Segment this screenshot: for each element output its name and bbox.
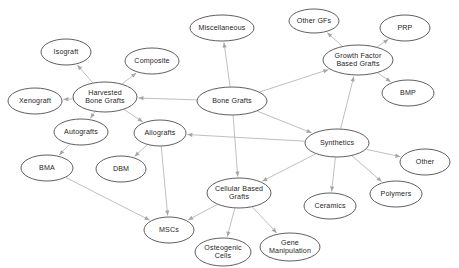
node-gene[interactable]: GeneManipulation [260,233,320,261]
node-allografts[interactable]: Allografts [134,120,186,146]
edge-synthetics-to-growth_factor [341,76,355,128]
node-label: PRP [397,24,412,32]
arrowhead-icon [138,96,143,100]
arrowhead-icon [395,154,400,158]
node-osteogenic[interactable]: OsteogenicCells [195,238,251,266]
node-bone_grafts[interactable]: Bone Grafts [197,87,267,115]
arrowhead-icon [330,186,334,191]
node-label: Bone Grafts [212,97,252,105]
edge-harvested-to-autografts [90,112,95,119]
edge-bone_grafts-to-synthetics [257,111,311,133]
edge-line [262,154,315,181]
edge-line [224,42,230,86]
node-label: Other GFs [297,17,332,25]
edge-harvested-to-xenograft [63,97,72,101]
node-growth_factor[interactable]: Growth FactorBased Grafts [323,45,393,75]
node-synthetics[interactable]: Synthetics [305,129,369,157]
node-label: Ceramics [314,202,345,210]
node-bmp[interactable]: BMP [382,80,434,106]
node-label: Growth Factor [335,52,382,60]
node-label: Miscellaneous [199,24,246,32]
concept-map-diagram: Bone GraftsMiscellaneousHarvestedBone Gr… [0,0,459,268]
edge-bma-to-mscs [66,178,150,221]
arrowhead-icon [90,113,95,118]
arrowhead-icon [63,97,68,101]
node-label: Grafts [229,193,250,201]
node-label: Gene [281,239,299,247]
node-label: Cellular Based [215,185,263,193]
arrowhead-icon [235,171,239,176]
arrowhead-icon [386,77,391,82]
node-label: Polymers [381,190,412,198]
edge-cellular-to-mscs [188,205,217,220]
node-label: Other [416,158,435,166]
node-harvested[interactable]: HarvestedBone Grafts [73,82,137,112]
edge-allografts-to-mscs [161,146,169,215]
edge-line [341,76,354,128]
edge-cellular-to-gene [252,207,276,233]
edge-line [366,149,400,156]
node-label: BMA [39,164,55,172]
node-label: Synthetics [320,139,355,147]
edge-line [260,70,329,92]
arrowhead-icon [323,69,328,73]
node-prp[interactable]: PRP [380,15,430,41]
edge-growth_factor-to-other_gfs [327,33,342,46]
edge-line [332,157,336,191]
edge-autografts-to-bma [59,144,69,155]
node-composite[interactable]: Composite [125,48,179,74]
edge-bone_grafts-to-harvested [138,96,196,100]
edge-synthetics-to-polymers [352,156,382,182]
edge-cellular-to-osteogenic [226,208,234,236]
edge-growth_factor-to-bmp [378,73,391,82]
node-label: Bone Grafts [85,97,125,105]
node-polymers[interactable]: Polymers [370,181,422,207]
node-bma[interactable]: BMA [21,155,73,181]
node-cellular[interactable]: Cellular BasedGrafts [207,178,271,208]
edge-line [233,115,238,176]
edge-harvested-to-allografts [124,110,143,122]
edge-line [138,98,196,100]
node-miscellaneous[interactable]: Miscellaneous [190,15,254,41]
edge-bone_grafts-to-cellular [233,115,239,176]
edge-harvested-to-composite [122,73,136,84]
edge-synthetics-to-other [366,149,400,157]
edge-line [187,135,304,142]
node-isograft[interactable]: Isograft [41,39,91,65]
node-label: MSCs [159,226,179,234]
node-label: DBM [113,165,129,173]
edge-bone_grafts-to-miscellaneous [223,42,230,86]
node-other_gfs[interactable]: Other GFs [289,9,339,33]
arrowhead-icon [223,42,227,47]
node-label: Xenograft [19,97,51,105]
edge-growth_factor-to-prp [377,39,388,47]
node-other[interactable]: Other [400,149,450,175]
node-label: BMP [400,89,416,97]
arrowhead-icon [383,39,388,44]
graph-canvas: Bone GraftsMiscellaneousHarvestedBone Gr… [0,0,459,268]
edge-synthetics-to-ceramics [330,157,335,191]
nodes-layer: Bone GraftsMiscellaneousHarvestedBone Gr… [8,9,450,266]
node-label: Isograft [54,48,79,56]
node-label: Autografts [64,128,98,136]
node-autografts[interactable]: Autografts [54,119,108,145]
arrowhead-icon [187,133,192,137]
edge-synthetics-to-allografts [187,133,304,141]
arrowhead-icon [306,129,311,133]
node-label: Composite [134,57,169,65]
node-label: Allografts [144,129,175,137]
node-label: Cells [215,252,232,260]
node-label: Harvested [88,89,122,97]
node-dbm[interactable]: DBM [96,156,146,182]
edge-line [66,178,150,221]
arrowhead-icon [137,117,142,122]
node-xenograft[interactable]: Xenograft [8,88,62,114]
arrowhead-icon [131,73,136,78]
edge-allografts-to-dbm [135,145,148,157]
edge-line [352,156,382,182]
edge-synthetics-to-cellular [262,154,315,181]
node-ceramics[interactable]: Ceramics [304,193,356,219]
node-label: Manipulation [269,247,311,255]
node-mscs[interactable]: MSCs [144,217,194,243]
node-label: Osteogenic [204,244,242,252]
